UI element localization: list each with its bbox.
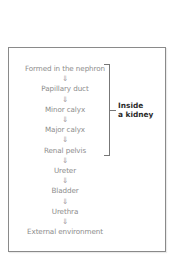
step-ureter: Ureter xyxy=(8,166,122,176)
step-urethra: Urethra xyxy=(8,207,122,217)
inside-kidney-label: Inside a kidney xyxy=(118,101,153,119)
double-down-arrow-icon: ⇓ xyxy=(8,176,122,186)
bracket-label-line2: a kidney xyxy=(118,110,153,119)
double-down-arrow-icon: ⇓ xyxy=(8,156,122,166)
double-down-arrow-icon: ⇓ xyxy=(8,197,122,207)
double-down-arrow-icon: ⇓ xyxy=(8,217,122,227)
bracket-tick xyxy=(110,110,116,111)
bracket-label-line1: Inside xyxy=(118,101,153,110)
step-bladder: Bladder xyxy=(8,186,122,196)
step-external-environment: External environment xyxy=(8,227,122,237)
